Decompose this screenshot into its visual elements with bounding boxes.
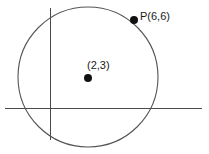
center-point-marker [84,74,92,82]
geometry-canvas [0,0,209,154]
point-p-label: P(6,6) [140,10,170,22]
point-p-marker [130,16,138,24]
center-point-label: (2,3) [87,59,110,71]
geometry-figure: (2,3) P(6,6) [0,0,209,154]
